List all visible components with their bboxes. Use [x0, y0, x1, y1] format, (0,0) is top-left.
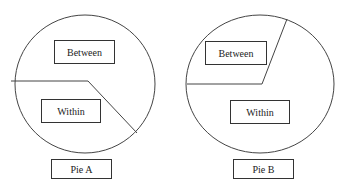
pie-b-between-label: Between [205, 41, 267, 65]
pie-a-caption: Pie A [51, 159, 112, 179]
pie-a-between-label: Between [54, 40, 115, 64]
pie-b-caption: Pie B [233, 159, 294, 179]
pie-a-within-label: Within [41, 99, 101, 123]
pie-b-within-label: Within [230, 100, 290, 124]
pie-a-circle [15, 15, 155, 153]
